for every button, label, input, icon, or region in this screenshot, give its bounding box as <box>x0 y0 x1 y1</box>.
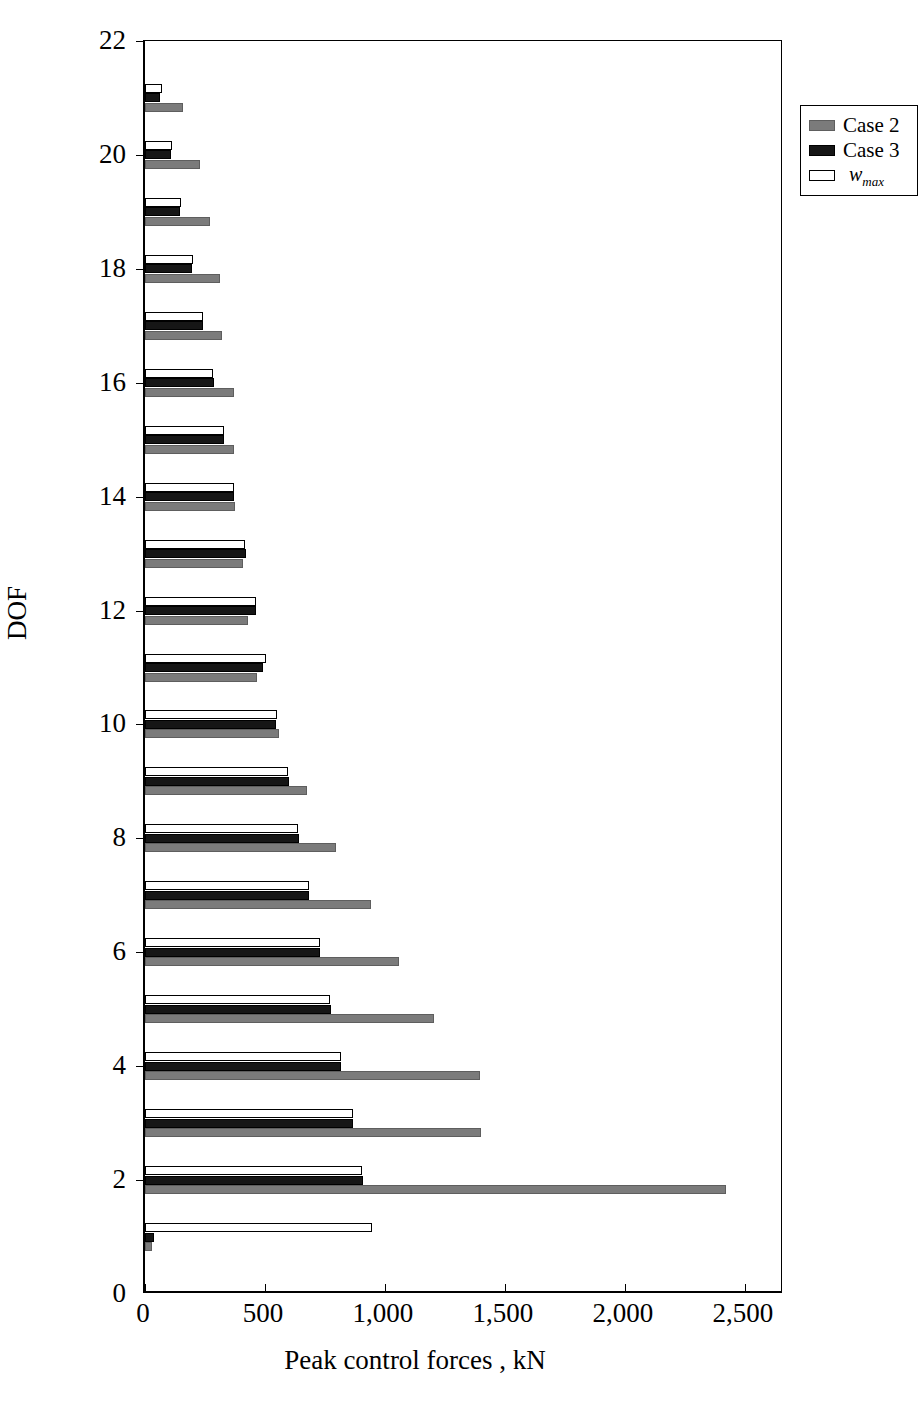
legend-item-case3: Case 3 <box>809 138 909 163</box>
bar-case2-dof-17 <box>145 331 222 340</box>
y-tick-label-12: 12 <box>99 596 126 623</box>
bar-wmax-dof-21 <box>145 84 162 93</box>
y-tick-4 <box>136 1066 145 1067</box>
bar-wmax-dof-9 <box>145 767 288 776</box>
legend-item-case2: Case 2 <box>809 113 909 138</box>
x-tick-500 <box>265 1284 266 1293</box>
bars-layer <box>145 41 781 1291</box>
y-tick-label-8: 8 <box>113 824 127 851</box>
x-tick-1,000 <box>385 1284 386 1293</box>
bar-case2-dof-20 <box>145 160 200 169</box>
legend-label-case3: Case 3 <box>843 140 900 161</box>
x-tick-label-2,500: 2,500 <box>713 1300 774 1327</box>
legend-label-case2: Case 2 <box>843 115 900 136</box>
bar-case3-dof-1 <box>145 1233 154 1242</box>
bar-case3-dof-9 <box>145 777 289 786</box>
y-tick-14 <box>136 497 145 498</box>
bar-wmax-dof-19 <box>145 198 181 207</box>
y-tick-12 <box>136 611 145 612</box>
x-tick-label-1,000: 1,000 <box>353 1300 414 1327</box>
bar-wmax-dof-5 <box>145 995 330 1004</box>
bar-case2-dof-16 <box>145 388 234 397</box>
bar-case3-dof-10 <box>145 720 276 729</box>
bar-wmax-dof-8 <box>145 824 298 833</box>
bar-case2-dof-3 <box>145 1128 481 1137</box>
bar-case3-dof-14 <box>145 492 234 501</box>
y-tick-6 <box>136 952 145 953</box>
bar-wmax-dof-17 <box>145 312 203 321</box>
bar-case2-dof-1 <box>145 1242 152 1251</box>
bar-case2-dof-14 <box>145 502 235 511</box>
y-axis-title: DOF <box>2 586 33 640</box>
bar-case3-dof-21 <box>145 93 160 102</box>
bar-case3-dof-12 <box>145 606 256 615</box>
bar-wmax-dof-15 <box>145 426 224 435</box>
bar-case2-dof-7 <box>145 900 371 909</box>
y-tick-2 <box>136 1180 145 1181</box>
legend-item-wmax: wmax <box>809 163 909 188</box>
bar-case3-dof-5 <box>145 1005 331 1014</box>
bar-case2-dof-8 <box>145 843 336 852</box>
x-tick-label-1,500: 1,500 <box>473 1300 534 1327</box>
x-tick-2,000 <box>625 1284 626 1293</box>
legend-label-wmax: wmax <box>843 164 884 188</box>
bar-wmax-dof-10 <box>145 710 277 719</box>
bar-wmax-dof-14 <box>145 483 234 492</box>
y-tick-22 <box>136 41 145 42</box>
bar-case3-dof-7 <box>145 891 309 900</box>
x-tick-1,500 <box>505 1284 506 1293</box>
y-tick-20 <box>136 155 145 156</box>
bar-case2-dof-6 <box>145 957 399 966</box>
bar-case2-dof-19 <box>145 217 210 226</box>
bar-case3-dof-8 <box>145 834 299 843</box>
plot-area: Case 2Case 3wmax <box>143 40 782 1293</box>
y-tick-label-2: 2 <box>113 1166 127 1193</box>
bar-case3-dof-11 <box>145 663 263 672</box>
bar-case2-dof-10 <box>145 729 279 738</box>
y-tick-label-22: 22 <box>99 27 126 54</box>
x-tick-0 <box>145 1284 146 1293</box>
y-tick-label-14: 14 <box>99 482 126 509</box>
legend-swatch-wmax-icon <box>809 170 835 181</box>
bar-case3-dof-20 <box>145 150 171 159</box>
bar-wmax-dof-18 <box>145 255 193 264</box>
bar-case3-dof-2 <box>145 1176 363 1185</box>
bar-case3-dof-15 <box>145 435 224 444</box>
y-tick-label-20: 20 <box>99 140 126 167</box>
bar-wmax-dof-13 <box>145 540 245 549</box>
x-tick-label-0: 0 <box>136 1300 150 1327</box>
bar-case2-dof-21 <box>145 103 183 112</box>
y-tick-label-4: 4 <box>113 1052 127 1079</box>
bar-wmax-dof-7 <box>145 881 309 890</box>
bar-case2-dof-18 <box>145 274 220 283</box>
y-tick-16 <box>136 383 145 384</box>
bar-wmax-dof-11 <box>145 654 266 663</box>
legend-swatch-case2-icon <box>809 120 835 131</box>
bar-case3-dof-18 <box>145 264 192 273</box>
x-tick-2,500 <box>745 1284 746 1293</box>
bar-case2-dof-5 <box>145 1014 434 1023</box>
bar-case2-dof-12 <box>145 616 248 625</box>
bar-case3-dof-16 <box>145 378 214 387</box>
y-tick-label-6: 6 <box>113 938 127 965</box>
x-tick-label-2,000: 2,000 <box>593 1300 654 1327</box>
bar-case2-dof-4 <box>145 1071 480 1080</box>
y-tick-label-0: 0 <box>113 1280 127 1307</box>
bar-case3-dof-17 <box>145 321 203 330</box>
bar-wmax-dof-12 <box>145 597 256 606</box>
y-tick-10 <box>136 724 145 725</box>
bar-wmax-dof-1 <box>145 1223 372 1232</box>
bar-case2-dof-11 <box>145 673 257 682</box>
bar-case2-dof-13 <box>145 559 243 568</box>
bar-case3-dof-13 <box>145 549 246 558</box>
y-tick-8 <box>136 838 145 839</box>
legend: Case 2Case 3wmax <box>800 105 918 196</box>
bar-wmax-dof-6 <box>145 938 320 947</box>
y-tick-18 <box>136 269 145 270</box>
legend-swatch-case3-icon <box>809 145 835 156</box>
x-tick-label-500: 500 <box>243 1300 284 1327</box>
bar-case2-dof-15 <box>145 445 234 454</box>
bar-wmax-dof-2 <box>145 1166 362 1175</box>
bar-case3-dof-3 <box>145 1119 353 1128</box>
